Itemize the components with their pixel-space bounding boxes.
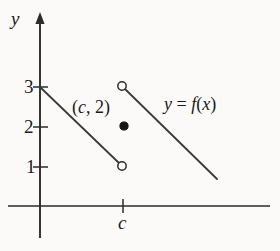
point-label-paren-close: ) bbox=[104, 97, 110, 117]
curve-label-y: y bbox=[164, 94, 172, 114]
filled-point-marker bbox=[120, 122, 128, 130]
y-tick-label-3: 3 bbox=[24, 77, 34, 96]
point-label-var-c: c bbox=[78, 97, 86, 117]
open-circle-upper-marker bbox=[118, 82, 126, 90]
y-tick-label-1: 1 bbox=[26, 157, 36, 176]
y-axis-arrow-icon bbox=[35, 12, 44, 24]
y-axis-label: y bbox=[11, 9, 19, 28]
function-graph-figure: y 3 2 1 c (c, 2) y = f(x) bbox=[0, 0, 280, 251]
plot-canvas bbox=[0, 0, 280, 251]
point-annotation-label: (c, 2) bbox=[72, 98, 110, 116]
y-tick-label-2: 2 bbox=[24, 117, 34, 136]
open-circle-lower-marker bbox=[118, 162, 126, 170]
curve-label-paren-close: ) bbox=[210, 94, 216, 114]
point-label-value: 2 bbox=[95, 97, 104, 117]
point-label-comma: , bbox=[86, 97, 95, 117]
curve-label-x: x bbox=[202, 94, 210, 114]
x-tick-label-c: c bbox=[118, 213, 126, 232]
curve-annotation-label: y = f(x) bbox=[164, 95, 216, 113]
curve-label-equals: = bbox=[172, 94, 191, 114]
